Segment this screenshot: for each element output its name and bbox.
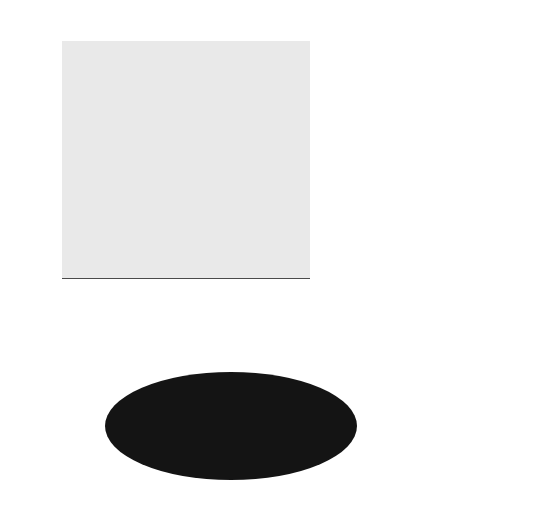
bar-chart-plot-area bbox=[62, 41, 310, 278]
figure-root bbox=[0, 0, 546, 511]
cog-bar-chart bbox=[0, 0, 546, 332]
pie-top-face bbox=[105, 356, 357, 464]
bar-chart-x-axis-labels bbox=[62, 283, 310, 299]
species-pie-chart bbox=[0, 336, 546, 511]
pie-graphic bbox=[105, 350, 360, 485]
bar-chart-y-axis bbox=[0, 0, 70, 300]
